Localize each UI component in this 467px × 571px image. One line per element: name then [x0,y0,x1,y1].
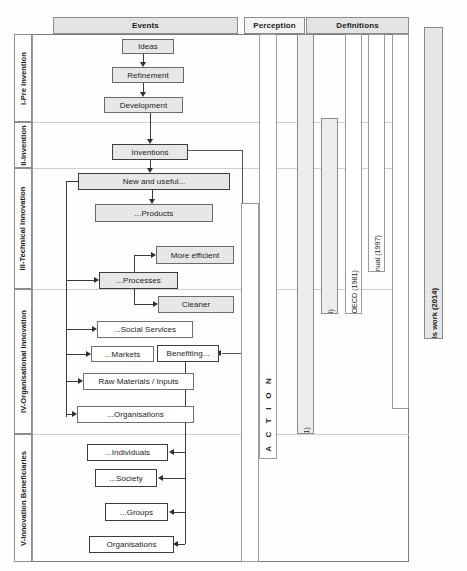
node-markets-label: ...Markets [105,350,141,359]
node-development[interactable]: Development [104,97,183,113]
stage-label-iii-technical-innovation-text: III-Technical Innovation [19,187,28,271]
column-header-definitions: Definitions [306,17,409,34]
node-organisations-5-label: Organisations [106,540,156,549]
node-markets[interactable]: ...Markets [91,346,154,362]
connector-inventions-right [188,150,243,151]
arrowhead-society [158,475,163,481]
node-inventions[interactable]: Inventions [112,144,188,160]
definition-column-schumpeter: Schumpeter (1934), European Commission (… [297,34,314,434]
stage-label-i-pre-invention-text: I-Pre Invention [19,52,28,105]
events-column-edge [32,34,33,562]
node-products[interactable]: ...Products [95,204,213,222]
definition-label-oecd: OECD (1981) [349,270,358,314]
connector-development-inventions [150,113,151,141]
node-society[interactable]: ...Society [95,469,157,487]
node-processes-label: ...Processes [116,276,161,285]
node-refinement-label: Refinement [127,71,168,80]
node-individuals-label: ...Individuals [105,448,150,457]
connector-trunk-socialservices [66,329,94,330]
node-refinement[interactable]: Refinement [112,67,184,83]
column-header-definitions-label: Definitions [336,21,378,30]
node-groups[interactable]: ...Groups [105,503,168,521]
node-cleaner[interactable]: Cleaner [158,296,234,313]
column-header-events-label: Events [132,21,159,30]
figure-canvas: Events Perception Definitions I-Pre Inve… [0,0,467,571]
connector-trunk-markets [66,354,88,355]
stage-label-iii-technical-innovation: III-Technical Innovation [14,168,32,289]
stage-label-i-pre-invention: I-Pre Invention [14,34,32,122]
definition-label-brenner: Brenner (1990), Frenz and Oughton (2005) [325,309,334,314]
column-header-events: Events [53,17,238,34]
node-ideas[interactable]: Ideas [122,39,174,54]
stage-label-ii-invention-text: II-Invention [19,125,28,166]
node-more-efficient-label: More efficient [171,251,220,260]
column-header-perception-label: Perception [253,21,295,30]
row-divider-4 [32,434,409,435]
connector-newuseful-left [66,181,78,182]
node-society-label: ...Society [109,474,142,483]
node-new-and-useful-label: New and useful... [123,177,186,186]
connector-benefiting-groups [174,512,185,513]
connector-processes-cleaner-h [134,304,155,305]
node-development-label: Development [120,101,168,110]
node-raw-materials[interactable]: Raw Materials / Inputs [83,373,194,390]
stage-label-iv-organisational-innovation: IV-Organisational Innovation [14,289,32,434]
node-more-efficient[interactable]: More efficient [156,246,234,264]
stage-label-ii-invention: II-Invention [14,122,32,168]
node-processes[interactable]: ...Processes [99,272,178,289]
arrowhead-individuals [169,449,174,455]
connector-processes-cleaner-v [134,289,135,304]
node-benefiting[interactable]: Benefiting... [157,345,219,362]
node-new-and-useful[interactable]: New and useful... [78,173,230,190]
definition-column-oecd: OECD (1981) [345,34,362,314]
column-header-perception: Perception [244,17,305,34]
stage-label-v-innovation-beneficiaries-text: V-Innovation Beneficiaries [19,451,28,546]
definition-column-brenner: Brenner (1990), Frenz and Oughton (2005) [321,118,338,314]
definition-column-west-farr: West and Farr (1990) [392,34,409,409]
connector-trunk-processes [66,280,96,281]
connector-benefiting-individuals [174,452,185,453]
node-organisations-5[interactable]: Organisations [89,536,174,553]
arrowhead-groups [169,509,174,515]
node-raw-materials-label: Raw Materials / Inputs [98,377,178,386]
node-individuals[interactable]: ...Individuals [87,444,168,461]
node-organisations-4-label: ...Organisations [107,410,164,419]
this-work-column: This work (2014) [424,27,443,339]
definition-label-schumpeter: Schumpeter (1934), European Commission (… [301,427,310,434]
node-organisations-4[interactable]: ...Organisations [77,406,194,423]
definition-label-oslo: Oslo Manual (1997) [372,235,381,272]
connector-processes-moreefficient-v [134,255,135,272]
this-work-label: This work (2014) [429,288,438,339]
node-inventions-label: Inventions [132,148,169,157]
arrowhead-organisations-5 [173,541,178,547]
node-cleaner-label: Cleaner [182,300,210,309]
node-groups-label: ...Groups [120,508,153,517]
node-ideas-label: Ideas [138,42,158,51]
stage-label-iv-organisational-innovation-text: IV-Organisational Innovation [19,310,28,413]
node-social-services[interactable]: ...Social Services [97,321,193,338]
node-products-label: ...Products [135,209,174,218]
stage-label-v-innovation-beneficiaries: V-Innovation Beneficiaries [14,434,32,562]
perception-action-label: A C T I O N [264,375,273,452]
definition-column-oslo: Oslo Manual (1997) [368,34,385,272]
connector-inventions-to-benefiting [222,353,243,354]
node-benefiting-label: Benefiting... [167,349,210,358]
perception-outcome-column: O U T C O M E [241,203,259,562]
perception-action-column: A C T I O N [259,34,277,459]
connector-benefiting-society [163,478,185,479]
connector-benefiting-organisations5 [178,544,185,545]
node-social-services-label: ...Social Services [114,325,176,334]
